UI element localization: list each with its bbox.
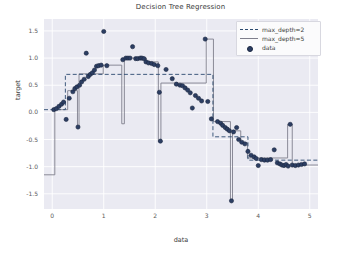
y-tick-label: 1.0 xyxy=(12,54,38,61)
chart-legend: max_depth=2 max_depth=5 data xyxy=(236,21,321,56)
y-tick-label: -1.5 xyxy=(12,190,38,197)
x-tick-label: 2 xyxy=(143,212,167,219)
legend-item-data: data xyxy=(239,43,317,52)
y-tick-label: -1.0 xyxy=(12,163,38,170)
solid-line-icon xyxy=(239,34,259,43)
chart-title: Decision Tree Regression xyxy=(0,3,361,11)
marker-dot-icon xyxy=(239,43,259,52)
x-tick-label: 4 xyxy=(246,212,270,219)
x-tick-label: 0 xyxy=(40,212,64,219)
x-tick-label: 3 xyxy=(195,212,219,219)
x-tick-label: 5 xyxy=(298,212,322,219)
legend-item-max-depth-2: max_depth=2 xyxy=(239,25,317,34)
x-axis-label: data xyxy=(44,236,318,244)
legend-label-max-depth-2: max_depth=2 xyxy=(259,26,304,33)
legend-label-data: data xyxy=(259,44,276,51)
y-tick-label: -0.5 xyxy=(12,136,38,143)
dashed-line-icon xyxy=(239,25,259,34)
y-tick-label: 0.5 xyxy=(12,81,38,88)
legend-label-max-depth-5: max_depth=5 xyxy=(259,35,304,42)
y-tick-label: 1.5 xyxy=(12,27,38,34)
chart-figure: Decision Tree Regression target data 1.5… xyxy=(0,0,361,261)
y-tick-label: 0.0 xyxy=(12,108,38,115)
legend-item-max-depth-5: max_depth=5 xyxy=(239,34,317,43)
x-tick-label: 1 xyxy=(92,212,116,219)
